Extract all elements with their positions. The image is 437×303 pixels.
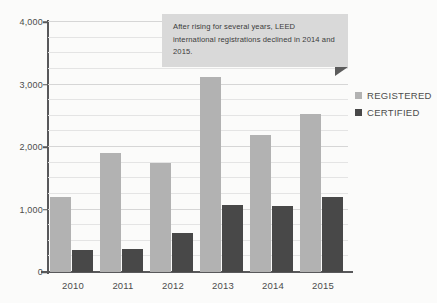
bar-certified-2013 [222, 205, 243, 272]
annotation-text: After rising for several years, LEED int… [173, 21, 339, 59]
y-tick-label: 1,000 [19, 205, 43, 215]
bar-group-2011: 2011 [98, 22, 148, 272]
legend-item-registered: REGISTERED [355, 90, 432, 101]
x-tick-label: 2014 [248, 280, 298, 291]
legend-swatch-icon [355, 109, 362, 116]
bar-group-2010: 2010 [48, 22, 98, 272]
y-tick-label: 4,000 [19, 17, 43, 27]
chart-legend: REGISTEREDCERTIFIED [355, 90, 432, 124]
x-tick-label: 2012 [148, 280, 198, 291]
x-tick-label: 2010 [48, 280, 98, 291]
x-tick-label: 2013 [198, 280, 248, 291]
bar-registered-2011 [100, 153, 121, 272]
legend-label: CERTIFIED [367, 107, 420, 118]
bar-registered-2015 [300, 114, 321, 272]
legend-item-certified: CERTIFIED [355, 107, 432, 118]
y-tick-label: 0 [38, 267, 43, 277]
bar-certified-2011 [122, 249, 143, 272]
x-tick-label: 2015 [298, 280, 348, 291]
annotation-callout: After rising for several years, LEED int… [162, 14, 348, 67]
bar-registered-2013 [200, 77, 221, 272]
bar-certified-2015 [322, 197, 343, 272]
y-tick-label: 3,000 [19, 80, 43, 90]
bar-certified-2014 [272, 206, 293, 272]
bar-certified-2010 [72, 250, 93, 272]
legend-label: REGISTERED [367, 90, 432, 101]
annotation-tail-icon [335, 67, 348, 76]
legend-swatch-icon [355, 92, 362, 99]
y-tick-label: 2,000 [19, 142, 43, 152]
chart-figure: 01,0002,0003,0004,000 201020112012201320… [0, 0, 437, 303]
bar-registered-2010 [50, 197, 71, 272]
bar-certified-2012 [172, 233, 193, 272]
bar-registered-2012 [150, 163, 171, 272]
bar-registered-2014 [250, 135, 271, 273]
x-tick-label: 2011 [98, 280, 148, 291]
